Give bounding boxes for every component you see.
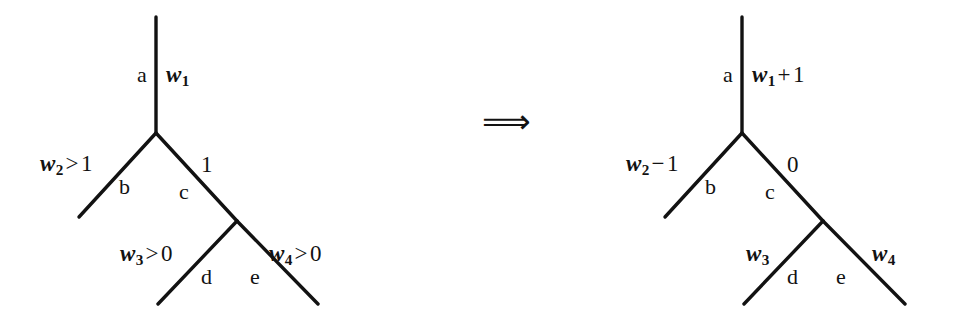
weight-operator: − <box>649 151 666 176</box>
weight-sub: 3 <box>762 251 770 268</box>
weight-var: w <box>752 62 768 87</box>
weight-rhs: 1 <box>81 151 93 176</box>
right-label-weight-c: 0 <box>787 153 799 176</box>
right-label-weight-d: w3 <box>746 242 769 267</box>
weight-operator: > <box>143 241 160 266</box>
right-label-node-c: c <box>765 181 775 203</box>
left-label-node-c: c <box>179 181 189 203</box>
tree-edges-svg <box>0 0 957 322</box>
left-label-weight-c: 1 <box>201 153 213 176</box>
weight-var: w <box>872 241 888 266</box>
weight-rhs: 0 <box>310 241 322 266</box>
left-edge-c <box>156 133 237 221</box>
left-label-weight-b: w2>1 <box>40 152 93 177</box>
left-label-weight-d: w3>0 <box>120 242 173 267</box>
weight-operator: + <box>775 62 792 87</box>
weight-var: w <box>269 241 285 266</box>
left-label-weight-e: w4>0 <box>269 242 322 267</box>
weight-operator: > <box>292 241 309 266</box>
weight-var: w <box>120 241 136 266</box>
weight-var: w <box>626 151 642 176</box>
double-right-arrow-icon: ⟹ <box>482 104 531 138</box>
tree-rewrite-figure: a w1 w2>1 b 1 c w3>0 d w4>0 e ⟹ a w1+1 w… <box>0 0 957 322</box>
weight-rhs: 0 <box>161 241 173 266</box>
right-label-node-e: e <box>836 266 846 288</box>
weight-sub: 4 <box>888 251 896 268</box>
weight-operator: > <box>63 151 80 176</box>
right-label-node-d: d <box>787 266 798 288</box>
weight-rhs: 1 <box>667 151 679 176</box>
right-label-weight-e: w4 <box>872 242 895 267</box>
right-label-weight-b: w2−1 <box>626 152 679 177</box>
right-edge-c <box>742 133 823 221</box>
left-label-node-e: e <box>250 266 260 288</box>
right-label-weight-a: w1+1 <box>752 63 805 88</box>
right-label-node-b: b <box>705 176 716 198</box>
left-label-weight-a: w1 <box>166 63 189 88</box>
right-tree-edges <box>665 17 905 304</box>
weight-rhs: 1 <box>793 62 805 87</box>
weight-sub: 1 <box>182 72 190 89</box>
weight-var: w <box>166 62 182 87</box>
left-label-node-a: a <box>137 64 147 86</box>
weight-var: w <box>746 241 762 266</box>
left-label-node-d: d <box>201 266 212 288</box>
left-label-node-b: b <box>119 176 130 198</box>
right-label-node-a: a <box>723 64 733 86</box>
weight-var: w <box>40 151 56 176</box>
